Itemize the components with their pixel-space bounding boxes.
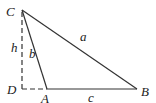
segment-label-a: a (80, 29, 87, 44)
segment-label-c: c (88, 90, 94, 103)
vertex-label-b: B (141, 84, 149, 99)
vertex-label-c: C (6, 4, 15, 19)
diagram-canvas: C h b a D A c B (0, 0, 156, 103)
segment-label-h: h (11, 40, 18, 55)
triangle-diagram: C h b a D A c B (0, 0, 156, 103)
vertex-label-a: A (40, 91, 49, 103)
vertex-label-d: D (6, 82, 17, 97)
side-a (22, 10, 137, 89)
segment-label-b: b (29, 46, 36, 61)
